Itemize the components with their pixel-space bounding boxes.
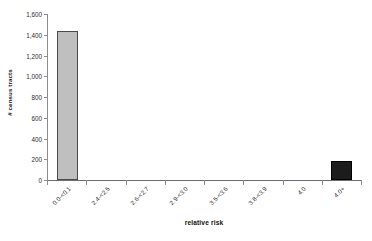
x-axis-title: relative risk: [47, 219, 361, 226]
bar-slot: [126, 14, 165, 180]
y-axis-tick-label: 400: [31, 135, 42, 142]
y-axis-tick-mark: [44, 35, 47, 36]
y-axis-tick-label: 0: [38, 177, 42, 184]
bar-slot: [165, 14, 204, 180]
y-axis-tick-label: 1,400: [26, 31, 42, 38]
y-axis-tick-label: 800: [31, 94, 42, 101]
bar-slot: [244, 14, 283, 180]
bar-chart: # census tracts 02004006008001,0001,2001…: [0, 0, 372, 241]
y-axis-tick-labels: 02004006008001,0001,2001,4001,600: [14, 14, 44, 180]
y-axis-tick-label: 1,200: [26, 52, 42, 59]
y-axis-tick-label: 1,600: [26, 11, 42, 18]
bar-slot: [322, 14, 361, 180]
y-axis-tick-mark: [44, 139, 47, 140]
bar-slot: [48, 14, 87, 180]
bar: [57, 31, 78, 180]
bar-slot: [205, 14, 244, 180]
bar-series: [48, 14, 361, 180]
bar-slot: [87, 14, 126, 180]
y-axis-title-label: # census tracts: [6, 69, 13, 116]
y-axis-tick-mark: [44, 97, 47, 98]
bar-slot: [283, 14, 322, 180]
y-axis-tick-label: 200: [31, 156, 42, 163]
y-axis-tick-mark: [44, 14, 47, 15]
y-axis-tick-label: 600: [31, 114, 42, 121]
x-axis-tick-labels: 0.0-<0.12.4-<2.52.6-<2.72.9-<3.03.5-<3.6…: [47, 185, 361, 219]
y-axis-tick-mark: [44, 118, 47, 119]
y-axis-tick-mark: [44, 76, 47, 77]
y-axis-tick-label: 1,000: [26, 73, 42, 80]
y-axis-tick-mark: [44, 56, 47, 57]
y-axis-tick-mark: [44, 159, 47, 160]
x-axis-tick-mark: [361, 180, 362, 185]
plot-area: [47, 14, 361, 180]
